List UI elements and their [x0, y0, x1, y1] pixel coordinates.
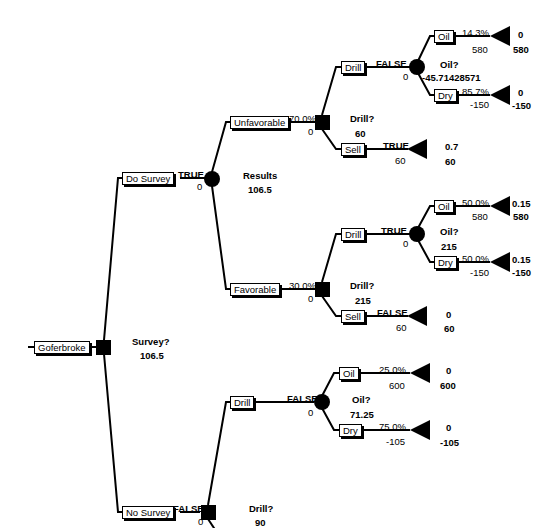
branch-cost-do-survey: 0: [197, 181, 202, 192]
branch-favorable[interactable]: Favorable: [230, 283, 280, 296]
terminal-prob-oil-unfav: 0: [518, 29, 523, 40]
terminal-prob-oil-fav: 0.15: [512, 198, 531, 209]
branch-payoff-sell-fav: 60: [396, 322, 407, 333]
terminal-node-dry-fav[interactable]: [490, 252, 510, 272]
branch-prob-favorable: 30.0%: [289, 280, 316, 291]
branch-payoff-sell-unfav: 60: [395, 155, 406, 166]
terminal-value-oil-nosurvey: 600: [440, 380, 456, 391]
branch-prob-dry-unfav: 85.7%: [462, 86, 489, 97]
branch-prob-dry-nosurvey: 75.0%: [379, 421, 406, 432]
branch-drill-nosurvey[interactable]: Drill: [230, 396, 254, 409]
chance-name-oil-nosurvey: Oil?: [352, 394, 370, 405]
branch-prob-oil-fav: 50.0%: [462, 197, 489, 208]
branch-flag-no-survey: FALSE: [173, 503, 204, 514]
decision-name-drill-unfav: Drill?: [350, 113, 374, 124]
branch-drill-unfav[interactable]: Drill: [341, 61, 365, 74]
chance-name-oil-fav: Oil?: [440, 226, 458, 237]
decision-node-survey[interactable]: [96, 340, 111, 355]
branch-flag-do-survey: TRUE: [178, 169, 204, 180]
branch-flag-drill-fav: TRUE: [381, 225, 407, 236]
branch-prob-oil-nosurvey: 25.0%: [379, 364, 406, 375]
decision-name-survey: Survey?: [132, 336, 170, 347]
branch-flag-sell-fav: FALSE: [377, 307, 408, 318]
branch-dry-fav[interactable]: Dry: [434, 256, 457, 269]
terminal-value-dry-unfav: -150: [512, 100, 531, 111]
chance-name-oil-unfav: Oil?: [440, 59, 458, 70]
terminal-node-dry-nosurvey[interactable]: [410, 420, 430, 440]
decision-node-drill-unfav[interactable]: [315, 115, 330, 130]
branch-unfavorable[interactable]: Unfavorable: [230, 116, 289, 129]
branch-oil-fav[interactable]: Oil: [434, 200, 454, 213]
decision-name-drill-fav: Drill?: [350, 280, 374, 291]
branch-no-survey[interactable]: No Survey: [122, 506, 174, 519]
branch-cost-drill-nosurvey: 0: [308, 407, 313, 418]
branch-payoff-dry-unfav: -150: [470, 99, 489, 110]
terminal-node-dry-unfav[interactable]: [490, 85, 510, 105]
terminal-prob-sell-fav: 0: [446, 309, 451, 320]
decision-value-survey: 106.5: [140, 350, 164, 361]
terminal-prob-dry-unfav: 0: [518, 87, 523, 98]
branch-oil-nosurvey[interactable]: Oil: [339, 367, 359, 380]
decision-value-drill-nosurvey: 90: [255, 517, 266, 528]
branch-prob-unfavorable: 70.0%: [289, 113, 316, 124]
terminal-value-sell-fav: 60: [444, 323, 455, 334]
chance-node-oil-nosurvey[interactable]: [314, 394, 330, 410]
branch-dry-unfav[interactable]: Dry: [434, 89, 457, 102]
chance-value-results: 106.5: [248, 184, 272, 195]
branch-cost-drill-fav: 0: [403, 238, 408, 249]
branch-payoff-oil-unfav: 580: [472, 44, 488, 55]
branch-prob-oil-unfav: 14.3%: [462, 27, 489, 38]
terminal-node-oil-nosurvey[interactable]: [410, 363, 430, 383]
branch-drill-fav[interactable]: Drill: [341, 228, 365, 241]
terminal-node-oil-fav[interactable]: [490, 196, 510, 216]
branch-cost-drill-unfav: 0: [403, 71, 408, 82]
terminal-value-sell-unfav: 60: [445, 156, 456, 167]
branch-cost-favorable: 0: [308, 293, 313, 304]
terminal-prob-oil-nosurvey: 0: [446, 365, 451, 376]
root-node-goferbroke[interactable]: Goferbroke: [34, 341, 90, 354]
decision-value-drill-unfav: 60: [355, 128, 366, 139]
chance-node-oil-fav[interactable]: [409, 226, 425, 242]
terminal-prob-dry-nosurvey: 0: [446, 422, 451, 433]
branch-do-survey[interactable]: Do Survey: [122, 172, 174, 185]
branch-prob-dry-fav: 50.0%: [462, 253, 489, 264]
chance-value-oil-fav: 215: [441, 241, 457, 252]
branch-sell-fav[interactable]: Sell: [341, 310, 365, 323]
chance-value-oil-nosurvey: 71.25: [350, 409, 374, 420]
terminal-node-sell-fav[interactable]: [407, 306, 427, 326]
terminal-node-sell-unfav[interactable]: [407, 139, 427, 159]
decision-node-drill-nosurvey[interactable]: [201, 505, 216, 520]
branch-sell-unfav[interactable]: Sell: [341, 143, 365, 156]
branch-payoff-oil-fav: 580: [472, 211, 488, 222]
branch-payoff-dry-fav: -150: [470, 267, 489, 278]
decision-name-drill-nosurvey: Drill?: [249, 503, 273, 514]
branch-flag-drill-unfav: FALSE: [376, 58, 407, 69]
branch-flag-sell-unfav: TRUE: [383, 140, 409, 151]
terminal-prob-sell-unfav: 0.7: [445, 141, 458, 152]
chance-node-results[interactable]: [204, 171, 220, 187]
terminal-prob-dry-fav: 0.15: [512, 254, 531, 265]
branch-payoff-dry-nosurvey: -105: [386, 436, 405, 447]
terminal-value-oil-unfav: 580: [513, 44, 529, 55]
terminal-value-dry-fav: -150: [512, 267, 531, 278]
branch-cost-unfavorable: 0: [308, 126, 313, 137]
chance-name-results: Results: [243, 170, 277, 181]
chance-value-oil-unfav: -45.71428571: [422, 72, 481, 83]
decision-value-drill-fav: 215: [355, 295, 371, 306]
terminal-value-dry-nosurvey: -105: [440, 437, 459, 448]
terminal-node-oil-unfav[interactable]: [490, 26, 510, 46]
branch-payoff-oil-nosurvey: 600: [389, 380, 405, 391]
branch-dry-nosurvey[interactable]: Dry: [339, 424, 362, 437]
branch-oil-unfav[interactable]: Oil: [434, 30, 454, 43]
terminal-value-oil-fav: 580: [513, 211, 529, 222]
decision-node-drill-fav[interactable]: [315, 282, 330, 297]
